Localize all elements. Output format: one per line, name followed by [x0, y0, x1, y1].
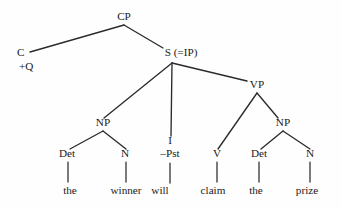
- terminal-prize: prize: [296, 184, 318, 196]
- terminal-winner: winner: [110, 184, 141, 196]
- terminal-the-subject: the: [63, 184, 77, 196]
- node-v: V: [213, 147, 221, 159]
- tree-terminal-words: the winner will claim the prize: [63, 184, 318, 196]
- node-n-subject: N: [121, 147, 129, 159]
- edge-s-to-np-subject: [104, 63, 172, 118]
- node-c-feature-plus-q: +Q: [19, 60, 33, 72]
- edge-cp-to-s: [124, 25, 163, 48]
- node-np-subject: NP: [96, 116, 110, 128]
- node-c: C: [17, 46, 24, 58]
- node-n-object: N: [306, 147, 314, 159]
- node-i: I: [168, 134, 172, 146]
- terminal-will: will: [151, 184, 168, 196]
- syntax-tree-figure: CP C +Q S (=IP) NP I –Pst VP V NP Det N …: [0, 0, 341, 210]
- terminal-claim: claim: [201, 184, 226, 196]
- syntax-tree-canvas: CP C +Q S (=IP) NP I –Pst VP V NP Det N …: [0, 0, 341, 210]
- node-i-feature-minus-pst: –Pst: [159, 147, 180, 159]
- node-cp: CP: [117, 10, 131, 22]
- node-vp: VP: [250, 78, 264, 90]
- edge-vp-to-v: [218, 93, 257, 149]
- tree-node-labels: CP C +Q S (=IP) NP I –Pst VP V NP Det N …: [17, 10, 314, 159]
- edge-s-to-i: [171, 63, 172, 136]
- node-np-object: NP: [276, 116, 290, 128]
- node-det-subject: Det: [59, 147, 76, 159]
- terminal-the-object: the: [249, 184, 263, 196]
- edge-vp-to-np-object: [257, 93, 278, 118]
- edge-s-to-vp: [172, 63, 247, 81]
- node-det-object: Det: [251, 147, 268, 159]
- tree-edges: [30, 25, 310, 149]
- node-s-ip: S (=IP): [165, 46, 198, 59]
- tree-terminal-stems: [68, 162, 310, 183]
- edge-cp-to-c: [30, 25, 124, 52]
